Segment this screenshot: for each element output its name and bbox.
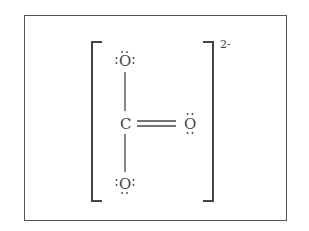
left-bracket (92, 42, 102, 201)
right-oxygen: O (184, 115, 196, 133)
central-carbon: C (120, 115, 131, 133)
bottom-oxygen: O (119, 175, 131, 193)
top-oxygen: O (119, 52, 131, 70)
charge-label: 2- (220, 38, 231, 51)
right-bracket (203, 42, 213, 201)
lewis-structure: 2- O C O O (0, 0, 309, 231)
